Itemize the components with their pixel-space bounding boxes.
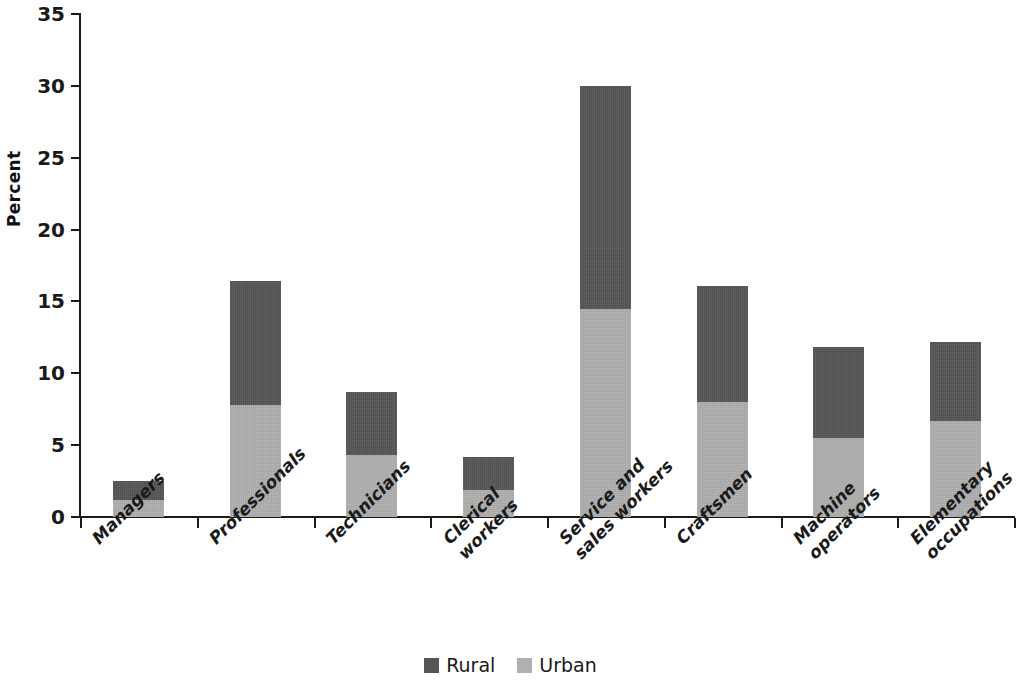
y-axis-tick: 15 bbox=[71, 300, 80, 302]
legend-label-urban: Urban bbox=[539, 656, 596, 675]
y-axis-tick-label: 0 bbox=[51, 507, 65, 527]
legend-swatch-urban-icon bbox=[517, 658, 532, 673]
bar-segment-rural bbox=[697, 286, 748, 402]
y-axis-tick: 35 bbox=[71, 13, 80, 15]
legend-item-urban: Urban bbox=[517, 656, 596, 675]
y-axis-tick-label: 15 bbox=[37, 291, 65, 311]
y-axis-title: Percent bbox=[4, 151, 24, 227]
x-axis-tick bbox=[781, 518, 783, 528]
legend-swatch-rural-icon bbox=[424, 658, 439, 673]
bar-segment-rural bbox=[580, 86, 631, 309]
stacked-bar-chart: Percent 05101520253035 ManagersProfessio… bbox=[0, 0, 1021, 688]
x-axis-tick bbox=[897, 518, 899, 528]
y-axis-tick-label: 20 bbox=[37, 220, 65, 240]
legend-item-rural: Rural bbox=[424, 656, 495, 675]
plot-area: 05101520253035 bbox=[80, 14, 1014, 517]
x-axis-tick bbox=[664, 518, 666, 528]
x-axis-tick bbox=[314, 518, 316, 528]
y-axis-tick: 30 bbox=[71, 85, 80, 87]
x-axis-tick bbox=[430, 518, 432, 528]
bar-segment-rural bbox=[346, 392, 397, 455]
x-axis-tick bbox=[197, 518, 199, 528]
bar-segment-rural bbox=[230, 281, 281, 405]
bar-segment-rural bbox=[930, 342, 981, 421]
y-axis-tick: 10 bbox=[71, 372, 80, 374]
y-axis-tick: 0 bbox=[71, 516, 80, 518]
bar-segment-rural bbox=[813, 347, 864, 438]
x-axis-tick bbox=[1014, 518, 1016, 528]
bar bbox=[580, 86, 631, 517]
y-axis-tick-label: 5 bbox=[51, 435, 65, 455]
x-axis-tick bbox=[547, 518, 549, 528]
y-axis-tick-label: 25 bbox=[37, 148, 65, 168]
y-axis-tick: 20 bbox=[71, 229, 80, 231]
y-axis-tick-label: 30 bbox=[37, 76, 65, 96]
y-axis-tick-label: 10 bbox=[37, 363, 65, 383]
y-axis-tick-label: 35 bbox=[37, 4, 65, 24]
chart-legend: Rural Urban bbox=[0, 656, 1021, 675]
y-axis-tick: 25 bbox=[71, 157, 80, 159]
legend-label-rural: Rural bbox=[446, 656, 495, 675]
x-axis-tick bbox=[80, 518, 82, 528]
y-axis-tick: 5 bbox=[71, 444, 80, 446]
